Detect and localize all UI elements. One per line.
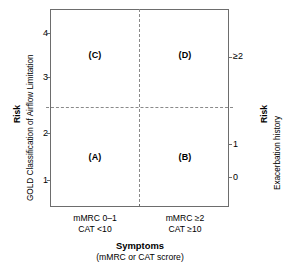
quadrant-label-b: (B) <box>170 152 200 162</box>
x-category-right-line2: CAT ≥10 <box>137 224 233 235</box>
left-tick-label-2: 2 <box>36 129 48 138</box>
x-category-right-line1: mMRC ≥2 <box>137 213 233 224</box>
left-axis-risk-title: Risk <box>13 105 22 123</box>
x-category-left-line2: CAT <10 <box>47 224 143 235</box>
x-category-right: mMRC ≥2 CAT ≥10 <box>137 213 233 235</box>
vertical-divider-line <box>139 9 140 207</box>
left-axis-title: GOLD Classification of Airflow Limitatio… <box>26 54 35 201</box>
bottom-axis-title: Symptoms <box>47 240 233 251</box>
quadrant-label-c: (C) <box>80 50 110 60</box>
right-tick-label-0: 0 <box>233 173 255 182</box>
right-tick-mark-ge2 <box>229 57 232 58</box>
right-tick-label-1: 1 <box>233 140 255 149</box>
right-axis-title: Exacerbation history <box>273 116 282 190</box>
bottom-axis-subtitle: (mMRC or CAT scrore) <box>47 252 233 263</box>
right-axis-risk-title: Risk <box>260 105 269 123</box>
x-category-left-line1: mMRC 0–1 <box>47 213 143 224</box>
right-tick-label-ge2: ≥2 <box>233 52 255 61</box>
right-tick-mark-1 <box>229 144 232 145</box>
gold-copd-assessment-figure: (C) (D) (A) (B) 4 3 2 1 ≥2 1 0 Risk GOLD… <box>0 0 284 275</box>
bottom-center-tick-mark <box>139 204 140 207</box>
quadrant-label-a: (A) <box>80 152 110 162</box>
left-tick-label-3: 3 <box>36 73 48 82</box>
left-tick-label-4: 4 <box>36 29 48 38</box>
right-tick-mark-0 <box>229 177 232 178</box>
quadrant-label-d: (D) <box>170 50 200 60</box>
x-category-left: mMRC 0–1 CAT <10 <box>47 213 143 235</box>
left-tick-label-1: 1 <box>36 176 48 185</box>
